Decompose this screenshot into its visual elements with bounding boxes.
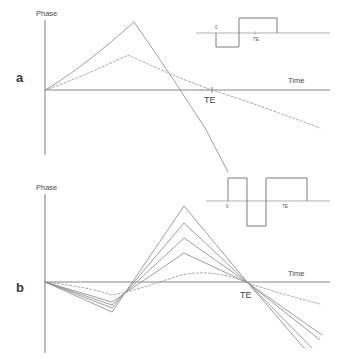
panel-a-inset-zero-label: 0 <box>215 25 218 30</box>
panel-a-y-axis-label: Phase <box>36 9 57 18</box>
panel-b-inset-zero-label: 0 <box>226 204 229 209</box>
panel-a-x-axis-label: Time <box>288 76 304 85</box>
panel-b-x-axis-label: Time <box>288 269 304 278</box>
phase-evolution-figure: a Phase Time TE 0 TE b Phase Time TE <box>0 0 337 359</box>
panel-b-inset-te-label: TE <box>282 204 288 209</box>
figure-background <box>0 0 337 359</box>
panel-a-te-label: TE <box>204 95 216 105</box>
panel-a-inset-te-label: TE <box>253 37 259 42</box>
panel-b-te-label: TE <box>240 290 252 300</box>
panel-b-letter: b <box>16 280 24 295</box>
panel-b-y-axis-label: Phase <box>36 183 57 192</box>
panel-a-letter: a <box>16 70 24 85</box>
